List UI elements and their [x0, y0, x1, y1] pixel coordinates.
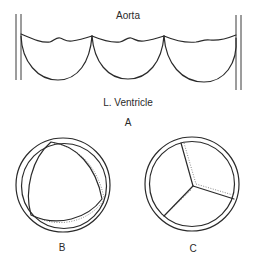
coaptation-dotted-top	[184, 143, 196, 184]
panel-c: C	[145, 137, 239, 254]
panel-a: Aorta L. Ventricle A	[16, 10, 241, 128]
coaptation-line-top	[181, 143, 193, 186]
cusp-free-edge-3	[164, 35, 236, 42]
panel-a-label: A	[125, 117, 132, 128]
panel-b-label: B	[59, 242, 66, 253]
aorta-label: Aorta	[116, 10, 140, 21]
valve-ring-inner	[22, 144, 107, 229]
cusp-free-edge-2	[92, 36, 164, 42]
coaptation-line-left	[164, 186, 193, 216]
cusp-body-1	[21, 36, 92, 80]
coaptation-line-right	[193, 186, 234, 199]
aortic-valve-diagram: Aorta L. Ventricle A B C	[0, 0, 254, 262]
cusp-free-edge-1	[21, 34, 92, 42]
left-ventricle-label: L. Ventricle	[103, 97, 153, 108]
cusp-body-3	[164, 36, 236, 82]
valve-ring-outer	[16, 138, 110, 232]
panel-c-label: C	[189, 243, 196, 254]
panel-b: B	[16, 138, 110, 253]
cusp-body-2	[92, 36, 164, 79]
